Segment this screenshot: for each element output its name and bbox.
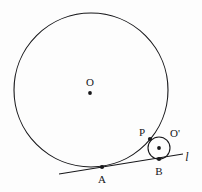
point-O [88,91,92,95]
geometry-diagram: O O' A B P l [0,0,202,192]
point-B [157,157,161,161]
label-line-l: l [185,152,188,163]
line-l [59,154,183,174]
point-O-prime [157,146,161,150]
point-A [100,165,104,169]
circle-O [14,13,168,167]
diagram-canvas [0,0,202,192]
point-P [148,137,152,141]
label-B: B [155,166,162,177]
label-A: A [98,174,106,185]
label-O: O [86,77,94,88]
label-O-prime: O' [170,128,180,139]
label-P: P [139,127,145,138]
